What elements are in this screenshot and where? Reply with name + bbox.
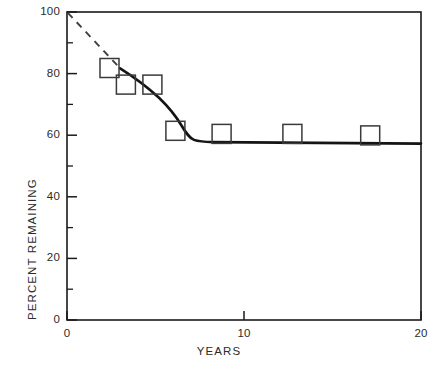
data-point-markers [100,59,380,145]
y-tick-label-100: 100 [12,5,60,17]
data-point-marker [166,121,185,140]
data-point-marker [116,75,135,94]
x-axis-title: YEARS [0,345,438,357]
plot-area [0,0,438,371]
chart-container: 100 80 60 40 20 0 0 10 20 YEARS PERCENT … [0,0,438,371]
x-major-ticks [67,311,421,320]
y-minor-ticks [67,43,73,289]
y-axis-title: PERCENT REMAINING [26,20,38,320]
data-point-marker [361,126,380,145]
x-tick-label-10: 10 [224,327,264,339]
plot-frame [67,12,421,320]
data-point-marker [212,124,231,143]
x-tick-label-0: 0 [47,327,87,339]
data-point-marker [283,124,302,143]
x-tick-label-20: 20 [401,327,438,339]
data-point-marker [143,75,162,94]
